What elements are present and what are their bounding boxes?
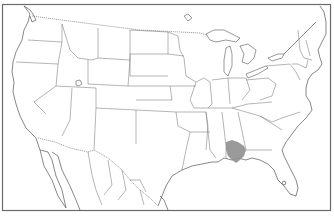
range-map <box>0 0 334 216</box>
point-marker <box>282 181 286 185</box>
